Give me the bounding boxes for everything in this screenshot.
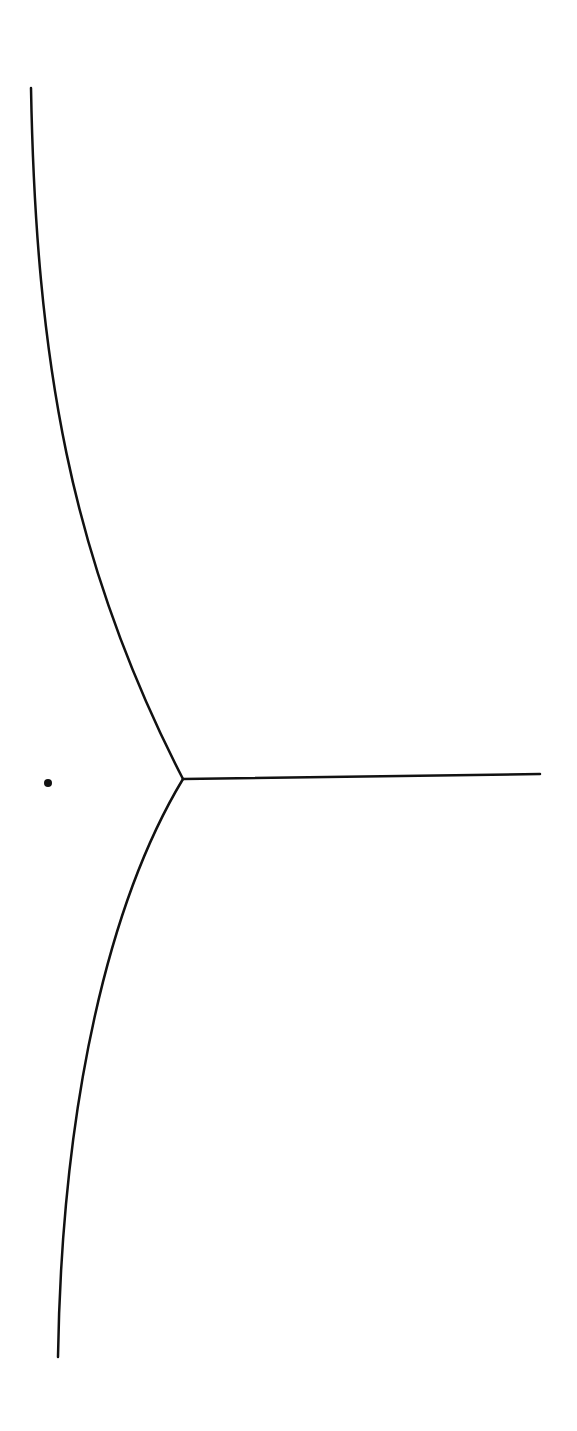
horizontal-line <box>183 774 540 779</box>
diagram-canvas <box>0 0 577 1431</box>
isolated-point <box>44 779 52 787</box>
lower-curve <box>58 779 183 1357</box>
upper-curve <box>31 88 183 779</box>
